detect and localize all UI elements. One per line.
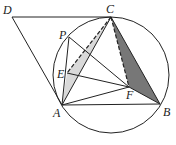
geometry-figure: D C P E A F B — [0, 0, 176, 145]
segment-AC — [62, 17, 111, 105]
segments — [12, 17, 160, 105]
label-D: D — [2, 3, 12, 17]
label-B: B — [163, 105, 171, 119]
label-F: F — [125, 88, 134, 102]
label-P: P — [58, 28, 67, 42]
label-E: E — [56, 67, 65, 81]
segment-AB — [62, 104, 160, 105]
label-A: A — [52, 106, 61, 120]
label-C: C — [106, 2, 115, 16]
segment-AF — [62, 87, 129, 105]
